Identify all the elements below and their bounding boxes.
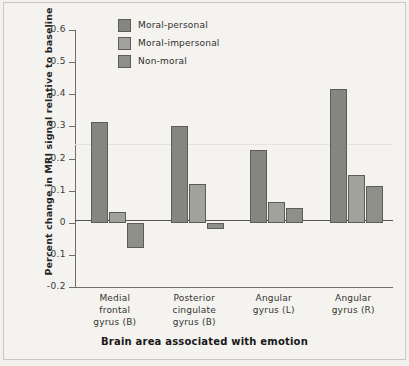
x-category-label-line: gyrus (B) xyxy=(75,316,155,328)
y-tick-label: 0.2 xyxy=(0,153,76,163)
legend-item[interactable]: Moral-personal xyxy=(118,16,220,34)
x-category-label-line: Posterior xyxy=(155,292,235,304)
bar xyxy=(250,150,267,222)
y-tick-label: 0 xyxy=(0,217,76,227)
legend-swatch-moral-impersonal xyxy=(118,37,131,50)
legend-item[interactable]: Non-moral xyxy=(118,52,220,70)
x-category-label-line: Angular xyxy=(314,292,394,304)
x-axis-line xyxy=(75,287,393,288)
bar xyxy=(91,122,108,223)
bar xyxy=(286,208,303,222)
bar xyxy=(127,223,144,249)
x-category-label-line: gyrus (L) xyxy=(234,304,314,316)
legend-label-moral-impersonal: Moral-impersonal xyxy=(138,38,220,48)
x-category-label-line: gyrus (R) xyxy=(314,304,394,316)
legend-swatch-moral-personal xyxy=(118,19,131,32)
y-tick-label: -0.2 xyxy=(0,281,76,291)
bar xyxy=(109,212,126,223)
bar xyxy=(366,186,383,223)
x-axis-title: Brain area associated with emotion xyxy=(0,336,409,347)
bar xyxy=(189,184,206,223)
bar xyxy=(207,223,224,229)
x-category-label: Posteriorcingulategyrus (B) xyxy=(155,292,235,328)
y-tick-label: 0.6 xyxy=(0,24,76,34)
figure-container: Percent change in MRI signal relative to… xyxy=(0,0,409,366)
y-tick-label: 0.3 xyxy=(0,120,76,130)
bar xyxy=(171,126,188,222)
y-tick-label: 0.1 xyxy=(0,185,76,195)
bar xyxy=(330,89,347,222)
x-category-label: Angulargyrus (R) xyxy=(314,292,394,316)
legend-label-non-moral: Non-moral xyxy=(138,56,187,66)
x-category-label-line: frontal xyxy=(75,304,155,316)
x-category-label: Angulargyrus (L) xyxy=(234,292,314,316)
x-category-label-line: cingulate xyxy=(155,304,235,316)
legend-label-moral-personal: Moral-personal xyxy=(138,20,208,30)
x-category-label-line: Angular xyxy=(234,292,314,304)
x-category-label-line: Medial xyxy=(75,292,155,304)
y-tick-label: 0.4 xyxy=(0,88,76,98)
y-tick-label: 0.5 xyxy=(0,56,76,66)
x-category-label-line: gyrus (B) xyxy=(155,316,235,328)
legend-swatch-non-moral xyxy=(118,55,131,68)
bar xyxy=(268,202,285,223)
bar xyxy=(348,175,365,223)
legend-item[interactable]: Moral-impersonal xyxy=(118,34,220,52)
y-tick-label: -0.1 xyxy=(0,249,76,259)
x-category-label: Medialfrontalgyrus (B) xyxy=(75,292,155,328)
chart-legend: Moral-personal Moral-impersonal Non-mora… xyxy=(118,16,220,70)
